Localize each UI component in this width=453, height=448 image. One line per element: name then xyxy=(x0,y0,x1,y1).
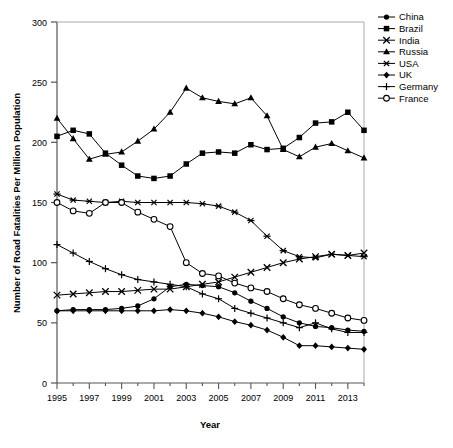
legend-item-uk[interactable]: UK xyxy=(378,69,413,80)
y-tick-label: 100 xyxy=(32,258,47,268)
series-usa xyxy=(53,191,367,260)
series-brazil xyxy=(54,110,367,182)
legend-item-germany[interactable]: Germany xyxy=(378,81,438,92)
road-fatalities-line-chart: 050100150200250300 199519971999200120032… xyxy=(0,0,453,448)
x-tick-label: 1999 xyxy=(112,393,132,403)
x-tick-label: 1997 xyxy=(79,393,99,403)
legend-label-france: France xyxy=(399,93,429,104)
x-tick-label: 2001 xyxy=(144,393,164,403)
legend-label-brazil: Brazil xyxy=(399,23,423,34)
y-tick-label: 50 xyxy=(37,318,47,328)
x-axis-title: Year xyxy=(200,419,220,430)
y-tick-label: 150 xyxy=(32,198,47,208)
x-tick-label: 2003 xyxy=(176,393,196,403)
legend-item-india[interactable]: India xyxy=(378,35,420,46)
y-tick-label: 200 xyxy=(32,138,47,148)
legend-item-brazil[interactable]: Brazil xyxy=(378,23,423,34)
legend-label-india: India xyxy=(399,35,420,46)
x-tick-label: 2009 xyxy=(273,393,293,403)
legend-item-china[interactable]: China xyxy=(378,11,425,22)
chart-legend: ChinaBrazilIndiaRussiaUSAUKGermanyFrance xyxy=(378,11,438,103)
series-uk xyxy=(54,306,367,352)
legend-label-china: China xyxy=(399,11,425,22)
series-france xyxy=(54,200,367,324)
y-tick-label: 250 xyxy=(32,78,47,88)
chart-container: 050100150200250300 199519971999200120032… xyxy=(0,0,453,448)
x-tick-label: 2011 xyxy=(306,393,325,403)
y-tick-label: 0 xyxy=(42,379,47,389)
legend-label-russia: Russia xyxy=(399,46,429,57)
x-tick-label: 1995 xyxy=(47,393,67,403)
legend-item-russia[interactable]: Russia xyxy=(378,46,429,57)
legend-label-germany: Germany xyxy=(399,81,438,92)
y-tick-label: 300 xyxy=(32,18,47,28)
legend-item-france[interactable]: France xyxy=(378,93,429,104)
y-axis-ticks: 050100150200250300 xyxy=(32,18,57,389)
series-china xyxy=(54,282,366,334)
legend-item-usa[interactable]: USA xyxy=(378,58,419,69)
legend-label-usa: USA xyxy=(399,58,419,69)
x-tick-label: 2013 xyxy=(338,393,358,403)
series-germany xyxy=(54,241,368,336)
legend-label-uk: UK xyxy=(399,69,413,80)
x-tick-label: 2005 xyxy=(209,393,229,403)
y-axis-title: Number of Road Fatalities Per Million Po… xyxy=(11,93,22,313)
x-tick-label: 2007 xyxy=(241,393,261,403)
x-axis-ticks: 1995199719992001200320052007200920112013 xyxy=(47,383,364,403)
data-series-layer xyxy=(53,85,367,353)
